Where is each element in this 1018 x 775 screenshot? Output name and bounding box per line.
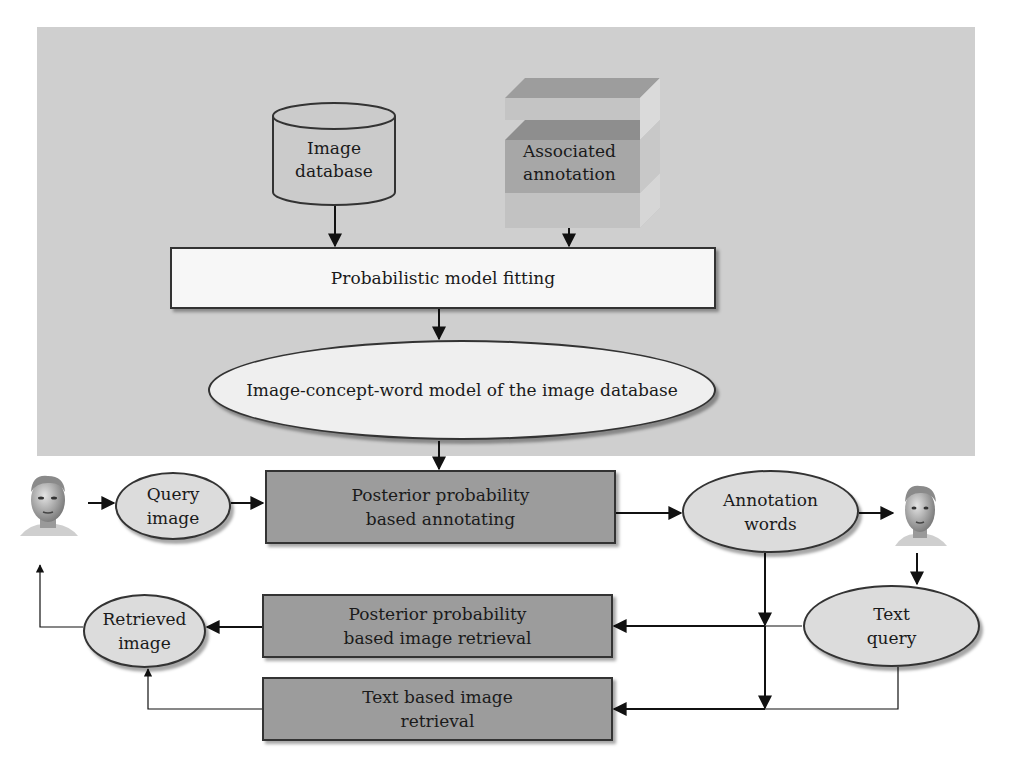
text-retrieval-line2: retrieval: [401, 709, 475, 733]
pp-retrieval-box: Posterior probability based image retrie…: [262, 594, 613, 658]
query-image-ellipse: Query image: [115, 472, 231, 540]
user-face-icon: [16, 470, 82, 538]
text-retrieval-line1: Text based image: [362, 685, 513, 709]
annotating-line1: Posterior probability: [352, 483, 530, 507]
text-retrieval-box: Text based image retrieval: [262, 677, 613, 741]
retrieved-image-ellipse: Retrieved image: [83, 594, 206, 668]
text-query-line1: Text: [873, 602, 910, 626]
arrow-text-to-retrieved: [148, 669, 262, 709]
model-fitting-label: Probabilistic model fitting: [331, 266, 555, 290]
text-query-line2: query: [867, 626, 917, 650]
pp-retrieval-line2: based image retrieval: [344, 626, 532, 650]
retrieved-image-line1: Retrieved: [103, 607, 187, 631]
pp-retrieval-line1: Posterior probability: [349, 602, 527, 626]
image-database-line2: database: [295, 160, 373, 183]
user-face-icon: [893, 480, 949, 548]
text-query-ellipse: Text query: [803, 585, 980, 667]
icw-model-label: Image-concept-word model of the image da…: [246, 378, 678, 402]
associated-annotation-line2: annotation: [523, 163, 616, 186]
line-text-query-to-text-retrieval: [765, 667, 898, 709]
annotation-words-line1: Annotation: [723, 488, 818, 512]
image-database-label: Image database: [272, 130, 396, 190]
annotating-line2: based annotating: [366, 507, 515, 531]
annotation-words-ellipse: Annotation words: [682, 470, 859, 553]
associated-annotation-line1: Associated: [523, 140, 616, 163]
image-database-line1: Image: [307, 137, 361, 160]
icw-model-ellipse: Image-concept-word model of the image da…: [208, 340, 716, 440]
query-image-line1: Query: [147, 482, 200, 506]
arrow-retrieved-to-user: [40, 565, 83, 627]
annotating-box: Posterior probability based annotating: [265, 470, 616, 544]
query-image-line2: image: [147, 506, 200, 530]
model-fitting-box: Probabilistic model fitting: [170, 247, 716, 309]
annotation-words-line2: words: [744, 512, 797, 536]
retrieved-image-line2: image: [118, 631, 171, 655]
associated-annotation-label: Associated annotation: [505, 138, 640, 188]
